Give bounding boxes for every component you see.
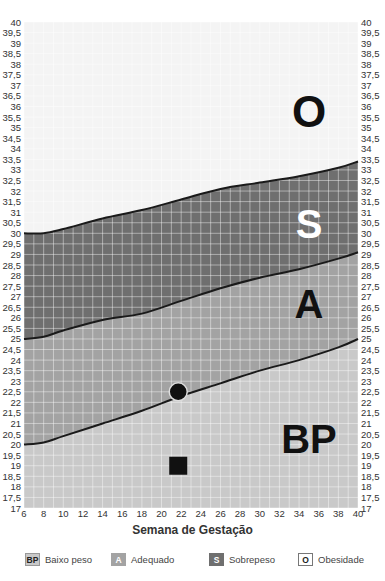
legend-swatch-a: A [111,553,126,566]
svg-text:36: 36 [361,101,372,112]
legend-swatch-s: S [209,553,224,566]
svg-text:19,5: 19,5 [3,450,22,461]
svg-text:8: 8 [41,508,46,519]
svg-text:24,5: 24,5 [3,344,22,355]
zone-letter-bp: BP [281,417,337,461]
svg-text:36: 36 [10,101,21,112]
svg-text:34,5: 34,5 [361,133,380,144]
svg-text:32: 32 [361,186,372,197]
svg-text:27,5: 27,5 [3,281,22,292]
svg-text:33: 33 [361,164,372,175]
legend-item-adequado: A Adequado [111,553,174,566]
svg-text:34: 34 [361,143,372,154]
marker-circle [169,383,187,401]
svg-text:27: 27 [10,291,21,302]
svg-text:30: 30 [10,228,21,239]
svg-text:18,5: 18,5 [3,471,22,482]
legend: BP Baixo peso A Adequado S Sobrepeso O O… [0,553,385,571]
svg-text:32: 32 [10,186,21,197]
zone-letter-a: A [295,282,324,326]
svg-text:17,5: 17,5 [361,492,380,503]
marker-square [169,457,187,475]
y-axis-right: 1717,51818,51919,52020,52121,52222,52323… [361,17,380,514]
svg-text:31,5: 31,5 [361,196,380,207]
svg-text:28: 28 [361,270,372,281]
svg-text:22: 22 [10,397,21,408]
legend-label: Sobrepeso [229,554,275,565]
svg-text:38,5: 38,5 [3,48,22,59]
svg-text:40: 40 [10,17,21,28]
svg-text:29,5: 29,5 [361,238,380,249]
svg-text:32,5: 32,5 [361,175,380,186]
svg-text:35,5: 35,5 [3,112,22,123]
svg-text:31: 31 [361,207,372,218]
legend-item-baixo-peso: BP Baixo peso [25,553,92,566]
legend-swatch-bp: BP [25,553,40,566]
x-axis-title: Semana de Gestação [0,523,385,537]
svg-text:39,5: 39,5 [361,27,380,38]
svg-text:24,5: 24,5 [361,344,380,355]
svg-text:22,5: 22,5 [3,386,22,397]
svg-text:16: 16 [117,508,128,519]
svg-text:22: 22 [361,397,372,408]
svg-text:18: 18 [361,481,372,492]
zone-letter-s: S [296,202,323,246]
svg-text:37,5: 37,5 [3,69,22,80]
svg-text:24: 24 [196,508,207,519]
svg-text:20,5: 20,5 [361,429,380,440]
svg-text:26: 26 [215,508,226,519]
svg-text:35: 35 [10,122,21,133]
svg-text:21: 21 [361,418,372,429]
svg-text:26,5: 26,5 [3,302,22,313]
svg-text:27: 27 [361,291,372,302]
svg-text:26,5: 26,5 [361,302,380,313]
svg-text:19: 19 [10,460,21,471]
svg-text:23: 23 [10,376,21,387]
svg-text:23: 23 [361,376,372,387]
svg-text:20: 20 [10,439,21,450]
svg-text:19: 19 [361,460,372,471]
svg-text:30: 30 [254,508,265,519]
svg-text:26: 26 [361,312,372,323]
svg-text:25,5: 25,5 [361,323,380,334]
svg-text:39,5: 39,5 [3,27,22,38]
svg-text:20: 20 [156,508,167,519]
svg-text:14: 14 [97,508,108,519]
svg-text:10: 10 [58,508,69,519]
svg-text:34,5: 34,5 [3,133,22,144]
svg-text:20,5: 20,5 [3,429,22,440]
svg-text:22,5: 22,5 [361,386,380,397]
svg-text:24: 24 [361,355,372,366]
svg-text:31: 31 [10,207,21,218]
svg-text:30,5: 30,5 [361,217,380,228]
svg-text:39: 39 [361,38,372,49]
svg-text:21,5: 21,5 [361,407,380,418]
svg-text:40: 40 [361,17,372,28]
svg-text:36,5: 36,5 [361,90,380,101]
svg-text:31,5: 31,5 [3,196,22,207]
svg-text:28: 28 [235,508,246,519]
svg-text:36,5: 36,5 [3,90,22,101]
svg-text:21: 21 [10,418,21,429]
legend-label: Obesidade [318,554,364,565]
y-axis-left: 1717,51818,51919,52020,52121,52222,52323… [3,17,22,514]
legend-item-obesidade: O Obesidade [298,553,364,566]
bmi-gestation-chart: OSABP 1717,51818,51919,52020,52121,52222… [0,0,385,520]
legend-item-sobrepeso: S Sobrepeso [209,553,275,566]
svg-text:34: 34 [294,508,305,519]
svg-text:30,5: 30,5 [3,217,22,228]
svg-text:38: 38 [10,59,21,70]
svg-text:25: 25 [361,333,372,344]
svg-text:28,5: 28,5 [3,260,22,271]
svg-text:24: 24 [10,355,21,366]
svg-text:33,5: 33,5 [3,154,22,165]
svg-text:20: 20 [361,439,372,450]
svg-text:29,5: 29,5 [3,238,22,249]
svg-text:19,5: 19,5 [361,450,380,461]
svg-text:30: 30 [361,228,372,239]
svg-text:21,5: 21,5 [3,407,22,418]
svg-text:38,5: 38,5 [361,48,380,59]
svg-text:12: 12 [78,508,89,519]
zone-letter-o: O [292,87,326,136]
svg-text:37,5: 37,5 [361,69,380,80]
